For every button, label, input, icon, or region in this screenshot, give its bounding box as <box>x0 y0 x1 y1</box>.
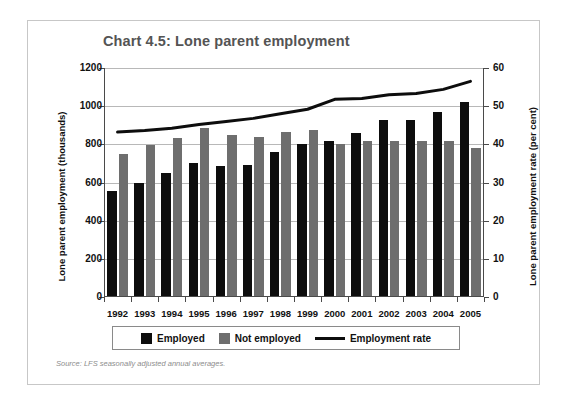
x-axis-label: 1994 <box>158 308 185 319</box>
plot-area: 020040060080010001200 0102030405060 1992… <box>104 68 484 297</box>
bar-not-employed <box>390 141 399 297</box>
bar-employed <box>107 191 116 297</box>
y-axis-right-line <box>483 68 484 297</box>
bar-not-employed <box>444 141 453 297</box>
y-axis-left-line <box>104 68 105 297</box>
x-axis-tick <box>348 297 349 302</box>
x-axis-tick <box>403 297 404 302</box>
y-axis-right-tick <box>484 68 489 69</box>
bar-employed <box>460 102 469 297</box>
bar-employed <box>406 120 415 297</box>
x-axis-line <box>104 296 484 298</box>
y-axis-left-label: 0 <box>62 291 102 302</box>
legend-label-employed: Employed <box>157 333 205 344</box>
y-axis-right-tick <box>484 183 489 184</box>
bar-employed <box>243 165 252 297</box>
gridline <box>104 106 484 107</box>
x-axis-tick <box>267 297 268 302</box>
bar-employed <box>433 112 442 297</box>
bar-not-employed <box>471 148 480 297</box>
y-axis-right-label: 50 <box>493 100 523 111</box>
x-axis-tick <box>294 297 295 302</box>
x-axis-label: 1992 <box>104 308 131 319</box>
x-axis-label: 2004 <box>430 308 457 319</box>
y-axis-left-label: 600 <box>62 177 102 188</box>
y-axis-left-title: Lone parent employment (thousands) <box>56 87 67 307</box>
x-axis-label: 1993 <box>131 308 158 319</box>
employment-rate-line-icon <box>315 337 345 340</box>
bar-not-employed <box>173 138 182 297</box>
bar-employed <box>134 183 143 297</box>
legend-item-not-employed: Not employed <box>219 333 301 344</box>
bar-not-employed <box>309 130 318 297</box>
x-axis-label: 2000 <box>321 308 348 319</box>
y-axis-left-label: 400 <box>62 215 102 226</box>
x-axis-tick <box>213 297 214 302</box>
y-axis-right-label: 10 <box>493 253 523 264</box>
legend-item-employment-rate: Employment rate <box>315 333 431 344</box>
figure-frame: Chart 4.5: Lone parent employment Lone p… <box>27 20 540 385</box>
bar-not-employed <box>119 154 128 297</box>
bar-not-employed <box>200 128 209 297</box>
x-axis-tick <box>131 297 132 302</box>
y-axis-right-tick <box>484 259 489 260</box>
legend-label-not-employed: Not employed <box>235 333 301 344</box>
source-note: Source: LFS seasonally adjusted annual a… <box>56 359 225 368</box>
x-axis-label: 1996 <box>213 308 240 319</box>
x-axis-label: 2005 <box>457 308 484 319</box>
gridline <box>104 144 484 145</box>
bar-employed <box>216 166 225 297</box>
bar-not-employed <box>363 141 372 297</box>
bar-employed <box>324 141 333 297</box>
legend-label-employment-rate: Employment rate <box>350 333 431 344</box>
x-axis-tick <box>430 297 431 302</box>
x-axis-tick <box>375 297 376 302</box>
bar-employed <box>379 120 388 297</box>
x-axis-label: 1995 <box>185 308 212 319</box>
y-axis-left-label: 1200 <box>62 62 102 73</box>
y-axis-right-label: 0 <box>493 291 523 302</box>
x-axis-tick <box>158 297 159 302</box>
y-axis-left-label: 1000 <box>62 100 102 111</box>
x-axis-label: 1997 <box>240 308 267 319</box>
y-axis-right-tick <box>484 144 489 145</box>
x-axis-label: 2003 <box>403 308 430 319</box>
bar-employed <box>161 173 170 297</box>
y-axis-left-label: 800 <box>62 138 102 149</box>
y-axis-right-label: 60 <box>493 62 523 73</box>
x-axis-tick <box>457 297 458 302</box>
x-axis-tick <box>484 297 485 302</box>
bar-employed <box>189 163 198 297</box>
x-axis-label: 1999 <box>294 308 321 319</box>
x-axis-label: 2002 <box>375 308 402 319</box>
chart-title: Chart 4.5: Lone parent employment <box>103 33 350 49</box>
bar-not-employed <box>254 137 263 297</box>
bar-not-employed <box>417 141 426 297</box>
y-axis-right-tick <box>484 221 489 222</box>
x-axis-tick <box>104 297 105 302</box>
x-axis-label: 2001 <box>348 308 375 319</box>
bar-not-employed <box>146 145 155 297</box>
y-axis-right-title: Lone parent employment rate (per cent) <box>527 87 538 307</box>
y-axis-left-label: 200 <box>62 253 102 264</box>
x-axis-label: 1998 <box>267 308 294 319</box>
x-axis-tick <box>321 297 322 302</box>
employed-swatch-icon <box>141 333 152 344</box>
legend-item-employed: Employed <box>141 333 205 344</box>
x-axis-tick <box>240 297 241 302</box>
bar-not-employed <box>336 144 345 297</box>
bar-not-employed <box>227 135 236 297</box>
bar-not-employed <box>281 132 290 297</box>
x-axis-tick <box>185 297 186 302</box>
gridline <box>104 68 484 69</box>
bar-employed <box>270 152 279 297</box>
y-axis-right-label: 40 <box>493 138 523 149</box>
chart-legend: Employed Not employed Employment rate <box>112 326 460 350</box>
bar-employed <box>297 144 306 297</box>
y-axis-right-tick <box>484 106 489 107</box>
bar-employed <box>351 133 360 297</box>
y-axis-right-label: 30 <box>493 177 523 188</box>
not-employed-swatch-icon <box>219 333 230 344</box>
y-axis-right-label: 20 <box>493 215 523 226</box>
